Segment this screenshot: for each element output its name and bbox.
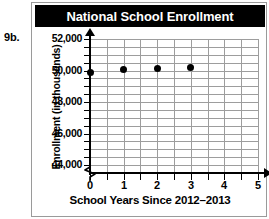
- gridline-horizontal: [90, 126, 258, 127]
- gridline-horizontal: [90, 63, 258, 64]
- gridline-vertical: [258, 39, 259, 173]
- gridline-vertical: [208, 39, 209, 173]
- x-axis-tick: [241, 174, 242, 180]
- y-axis-tick-label: 50,000: [32, 64, 82, 76]
- gridline-horizontal: [90, 102, 258, 103]
- gridline-horizontal: [90, 149, 258, 150]
- gridline-horizontal: [90, 55, 258, 56]
- gridline-vertical: [224, 39, 225, 173]
- y-axis-tick: [84, 110, 90, 111]
- y-axis-tick: [84, 134, 90, 135]
- gridline-horizontal: [90, 110, 258, 111]
- gridline-vertical: [140, 39, 141, 173]
- y-axis-tick: [84, 94, 90, 95]
- x-axis-tick-label: 2: [145, 179, 169, 191]
- chart-title-bar: National School Enrollment: [35, 5, 265, 27]
- y-axis-tick: [84, 149, 90, 150]
- worksheet-page: 9b. National School Enrollment Enrollmen…: [0, 0, 269, 219]
- gridline-horizontal: [90, 39, 258, 40]
- gridline-horizontal: [90, 78, 258, 79]
- chart-title: National School Enrollment: [66, 9, 233, 24]
- y-axis-tick-label: 46,000: [32, 127, 82, 139]
- x-axis-tick: [140, 174, 141, 180]
- x-axis-title: School Years Since 2012–2013: [32, 194, 268, 206]
- x-axis-tick-label: 5: [246, 179, 269, 191]
- y-axis-tick-label: 48,000: [32, 95, 82, 107]
- y-axis-line: [89, 35, 91, 175]
- gridline-horizontal: [90, 157, 258, 158]
- gridline-vertical: [107, 39, 108, 173]
- problem-number-label: 9b.: [4, 31, 19, 43]
- chart-card: National School Enrollment Enrollment (i…: [31, 2, 267, 217]
- gridline-vertical: [241, 39, 242, 173]
- y-axis-tick: [84, 71, 90, 72]
- y-axis-tick: [84, 63, 90, 64]
- gridline-vertical: [191, 39, 192, 173]
- y-axis-tick: [84, 47, 90, 48]
- gridline-horizontal: [90, 94, 258, 95]
- gridline-horizontal: [90, 134, 258, 135]
- y-axis-tick: [84, 39, 90, 40]
- gridline-vertical: [174, 39, 175, 173]
- y-axis-tick: [84, 102, 90, 103]
- y-axis-tick-label: 44,000: [32, 158, 82, 170]
- x-axis-tick: [174, 174, 175, 180]
- x-axis-arrow-icon: [264, 168, 269, 178]
- gridline-horizontal: [90, 71, 258, 72]
- y-axis-tick: [84, 141, 90, 142]
- y-axis-tick: [84, 86, 90, 87]
- gridline-vertical: [157, 39, 158, 173]
- y-axis-tick: [84, 157, 90, 158]
- axis-break-icon: [82, 163, 98, 181]
- y-axis-tick: [84, 118, 90, 119]
- plot-area: [90, 39, 258, 173]
- gridline-horizontal: [90, 47, 258, 48]
- y-axis-tick: [84, 126, 90, 127]
- gridline-horizontal: [90, 141, 258, 142]
- x-axis-tick: [107, 174, 108, 180]
- x-axis-line: [89, 172, 266, 174]
- gridline-horizontal: [90, 86, 258, 87]
- gridline-horizontal: [90, 165, 258, 166]
- y-axis-tick: [84, 78, 90, 79]
- x-axis-tick: [208, 174, 209, 180]
- x-axis-tick-label: 3: [179, 179, 203, 191]
- y-axis-tick: [84, 55, 90, 56]
- x-axis-tick-label: 4: [212, 179, 236, 191]
- gridline-vertical: [124, 39, 125, 173]
- gridline-horizontal: [90, 118, 258, 119]
- y-axis-tick-label: 52,000: [32, 32, 82, 44]
- x-axis-tick-label: 1: [112, 179, 136, 191]
